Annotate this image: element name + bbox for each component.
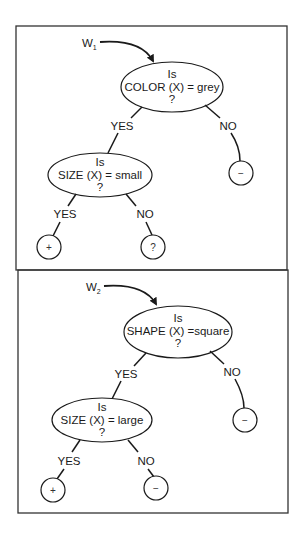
branch-label-no: NO — [223, 366, 240, 378]
svg-text:+: + — [50, 485, 56, 496]
branch-edge — [210, 351, 224, 364]
branch-label-yes: YES — [57, 455, 80, 467]
node-condition: SIZE (X) = small — [58, 169, 142, 181]
svg-text:−: − — [238, 168, 244, 179]
node-text-line: ? — [175, 337, 181, 349]
branch-label-yes: YES — [114, 368, 137, 380]
node-text-line: Is — [98, 401, 107, 413]
hypothesis-label: W2 — [86, 281, 101, 295]
branch-edge — [205, 105, 220, 118]
leaf-node-negative: − — [233, 408, 257, 432]
node-text-line: Is — [174, 312, 183, 324]
branch-label-no: NO — [137, 455, 154, 467]
leaf-node-positive: + — [37, 235, 61, 259]
panel-w2: W2 Is SHAPE (X) =square ? YES NO − Is SI… — [18, 270, 288, 513]
entry-arrow — [104, 286, 156, 304]
child-decision-node: Is SIZE (X) = large ? — [52, 398, 152, 442]
root-decision-node: Is COLOR (X) = grey ? — [121, 62, 223, 112]
node-text-line: ? — [97, 181, 103, 193]
svg-text:−: − — [153, 483, 159, 494]
leaf-node-negative: − — [144, 476, 168, 500]
leaf-node-positive: + — [41, 478, 65, 502]
hypothesis-label: W1 — [82, 37, 97, 51]
node-text-line: ? — [99, 426, 105, 438]
branch-edge — [231, 133, 240, 161]
branch-edge — [68, 194, 76, 206]
branch-edge — [128, 440, 138, 452]
branch-label-no: NO — [219, 120, 236, 132]
branch-label-no: NO — [136, 208, 153, 220]
branch-edge — [112, 381, 121, 399]
child-decision-node: Is SIZE (X) = small ? — [48, 153, 152, 197]
entry-arrow — [100, 42, 153, 61]
root-decision-node: Is SHAPE (X) =square ? — [124, 306, 232, 358]
decision-tree-figure: W1 Is COLOR (X) = grey ? YES NO − Is SIZ… — [0, 0, 304, 538]
branch-label-yes: YES — [53, 208, 76, 220]
branch-edge — [235, 379, 244, 408]
leaf-node-negative: − — [229, 161, 253, 185]
node-text-line: ? — [169, 93, 175, 105]
branch-edge — [57, 469, 64, 479]
branch-edge — [53, 222, 60, 236]
branch-label-yes: YES — [110, 120, 133, 132]
branch-edge — [146, 222, 152, 235]
node-condition: SHAPE (X) =square — [127, 325, 230, 337]
branch-edge — [72, 440, 80, 452]
svg-text:+: + — [46, 242, 52, 253]
leaf-node-unknown: ? — [141, 235, 165, 259]
node-text-line: Is — [168, 68, 177, 80]
node-text-line: Is — [96, 156, 105, 168]
node-condition: SIZE (X) = large — [61, 414, 144, 426]
panel-w1: W1 Is COLOR (X) = grey ? YES NO − Is SIZ… — [16, 26, 287, 270]
branch-edge — [134, 353, 146, 366]
svg-text:?: ? — [150, 242, 156, 253]
node-condition: COLOR (X) = grey — [125, 81, 220, 93]
branch-edge — [126, 194, 136, 206]
branch-edge — [108, 133, 118, 153]
svg-text:−: − — [242, 415, 248, 426]
branch-edge — [131, 107, 142, 118]
